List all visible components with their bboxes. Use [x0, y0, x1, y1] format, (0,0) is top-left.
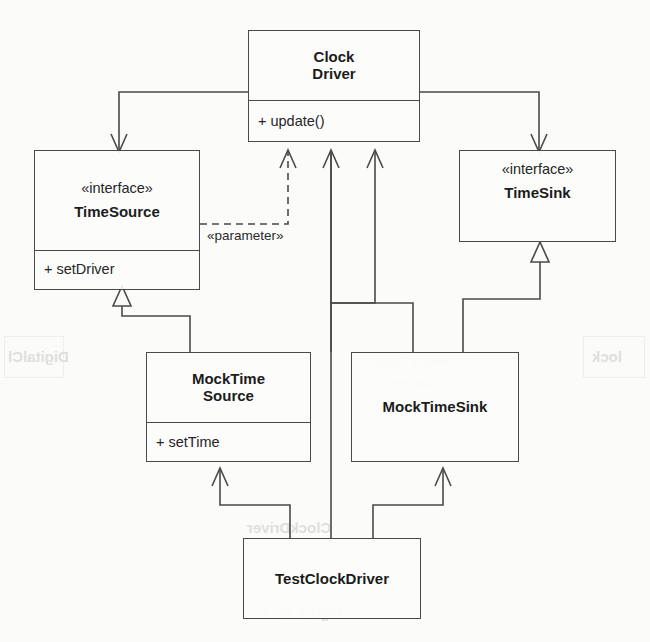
- link-mocktimesource-generalization: [122, 302, 190, 352]
- mock-time-source-name-line1: MockTime: [192, 370, 265, 388]
- test-clock-driver-name-compartment: TestClockDriver: [244, 539, 420, 618]
- link-clockdriver-to-timesink: [420, 92, 539, 150]
- parameter-edge-label: «parameter»: [207, 228, 284, 243]
- mock-time-source-name-line2: Source: [203, 387, 254, 405]
- clock-driver-operations-compartment: + update(): [249, 100, 419, 141]
- mock-time-source-name-compartment: MockTime Source: [147, 353, 310, 422]
- class-box-mock-time-source[interactable]: MockTime Source + setTime: [146, 352, 311, 462]
- link-timesource-parameter-dependency: [200, 152, 288, 224]
- link-mocktimesink-generalization: [463, 258, 540, 352]
- mock-time-source-operation-settime: + setTime: [156, 434, 220, 451]
- link-clockdriver-to-timesource: [119, 92, 248, 150]
- clock-driver-name-line2: Driver: [312, 65, 355, 83]
- mock-time-source-operations-compartment: + setTime: [147, 422, 310, 461]
- link-mocktimesource-to-clockdriver: [331, 152, 375, 352]
- uml-diagram-canvas: DigitalCl lock MockTime Source Figure 26…: [0, 0, 650, 642]
- time-source-name: TimeSource: [74, 203, 160, 221]
- clock-driver-operation-update: + update(): [258, 113, 325, 130]
- time-source-stereotype: «interface»: [81, 180, 153, 197]
- time-sink-stereotype: «interface»: [502, 161, 574, 178]
- class-box-test-clock-driver[interactable]: TestClockDriver: [243, 538, 421, 619]
- clock-driver-name-line1: Clock: [314, 48, 355, 66]
- time-sink-name: TimeSink: [504, 184, 570, 202]
- test-clock-driver-name: TestClockDriver: [275, 570, 389, 588]
- time-source-name-compartment: «interface» TimeSource: [35, 151, 199, 250]
- mock-time-sink-name-compartment: MockTimeSink: [352, 353, 518, 461]
- link-mocktimesink-to-clockdriver: [331, 152, 413, 352]
- mock-time-sink-name: MockTimeSink: [383, 398, 488, 416]
- time-source-operation-setdriver: + setDriver: [44, 261, 115, 278]
- link-testclockdriver-to-mocktimesink: [373, 470, 443, 538]
- link-testclockdriver-to-mocktimesource: [220, 470, 290, 538]
- class-box-time-sink[interactable]: «interface» TimeSink: [459, 150, 616, 242]
- class-box-mock-time-sink[interactable]: MockTimeSink: [351, 352, 519, 462]
- clock-driver-name-compartment: Clock Driver: [249, 31, 419, 100]
- time-source-operations-compartment: + setDriver: [35, 250, 199, 289]
- class-box-time-source[interactable]: «interface» TimeSource + setDriver: [34, 150, 200, 290]
- hollow-triangle-timesink: [531, 242, 549, 262]
- class-box-clock-driver[interactable]: Clock Driver + update(): [248, 30, 420, 142]
- time-sink-name-compartment: «interface» TimeSink: [460, 151, 615, 241]
